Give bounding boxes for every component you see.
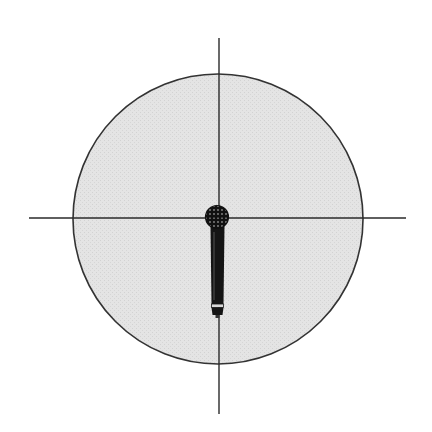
pattern-canvas bbox=[0, 0, 432, 432]
polar-pattern-diagram: Omnidirectional microphone pickup patter… bbox=[0, 0, 432, 432]
